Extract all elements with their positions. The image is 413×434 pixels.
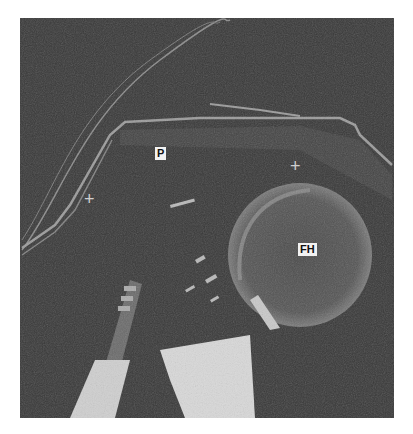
caliper-marker-right: +: [290, 157, 301, 175]
label-p: P: [155, 147, 166, 160]
caliper-marker-left: +: [84, 190, 95, 208]
ultrasound-anatomy: [20, 18, 394, 418]
ultrasound-image: [20, 18, 394, 418]
label-fh: FH: [298, 243, 317, 256]
